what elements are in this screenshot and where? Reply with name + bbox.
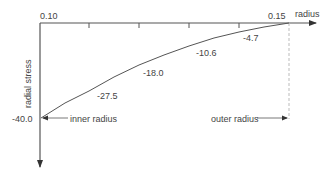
y-axis-label: radial stress: [23, 59, 33, 108]
x-tick-end: 0.15: [268, 11, 286, 21]
x-ticks: [89, 23, 239, 28]
inner-radius-label: inner radius: [70, 114, 117, 124]
outer-radius-label: outer radius: [211, 114, 259, 124]
x-tick-start: 0.10: [40, 11, 58, 21]
point-label-2: -27.5: [97, 91, 118, 101]
x-axis-label: radius: [295, 9, 320, 19]
point-label-4: -10.6: [196, 48, 217, 58]
point-label-inner: -40.0: [12, 114, 33, 124]
point-label-5: -4.7: [243, 33, 259, 43]
diagram-canvas: [0, 0, 332, 171]
point-label-3: -18.0: [143, 68, 164, 78]
